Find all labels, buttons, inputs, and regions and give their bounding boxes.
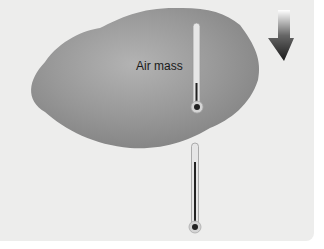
air-mass-blob [31, 8, 259, 148]
downward-arrow-icon [268, 10, 294, 61]
air-mass-label: Air mass [136, 59, 183, 73]
thermometer-lower [189, 143, 201, 233]
diagram-canvas [0, 0, 324, 249]
